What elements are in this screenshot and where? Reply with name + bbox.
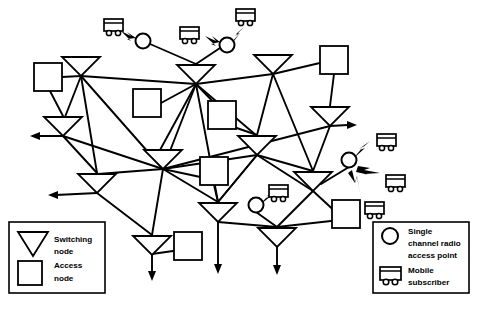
access-node-1[interactable] — [34, 63, 62, 91]
radio-legend: Single channel radio access point Mobile… — [373, 222, 469, 293]
legend-right-item-0-line1: Single — [408, 227, 433, 236]
legend-right-item-0-line3: access point — [408, 251, 457, 260]
legend-left-item-0-line1: Switching — [54, 235, 92, 244]
lightning-bolt-icon — [356, 166, 380, 175]
switching-node-4[interactable] — [311, 107, 349, 126]
switching-node-5[interactable] — [44, 117, 82, 136]
switching-node-6[interactable] — [238, 136, 276, 155]
lightning-bolt-icon — [205, 36, 220, 46]
mobile-subscriber-2[interactable] — [180, 27, 199, 44]
radio-access-point-4[interactable] — [249, 198, 264, 213]
trunk-arrow-down-mid — [214, 264, 222, 274]
legend-access-node-square-icon — [18, 261, 42, 285]
radio-access-point-3[interactable] — [342, 153, 357, 168]
switching-node-8[interactable] — [78, 174, 116, 193]
diagram-canvas: Switching node Access node Single channe… — [0, 0, 479, 309]
trunk-arrow-left-lower — [48, 191, 58, 199]
mobile-subscriber-4[interactable] — [377, 134, 396, 151]
network-topology-svg: Switching node Access node Single channe… — [0, 0, 479, 309]
access-node-2[interactable] — [133, 89, 161, 117]
switching-node-10[interactable] — [199, 203, 237, 222]
mobile-subscriber-1[interactable] — [104, 19, 123, 36]
legend-left-item-1-line1: Access — [54, 261, 83, 270]
switching-node-1[interactable] — [62, 57, 100, 76]
access-node-6[interactable] — [174, 232, 202, 260]
trunk-arrow-left-upper — [30, 132, 40, 140]
node-type-legend: Switching node Access node — [9, 222, 105, 293]
lightning-bolt-icon — [121, 31, 136, 41]
legend-right-item-0-line2: channel radio — [408, 239, 461, 248]
legend-left-item-1-line2: node — [54, 274, 74, 283]
legend-left-item-0-line2: node — [54, 247, 74, 256]
mobile-subscriber-7[interactable] — [269, 185, 288, 202]
legend-right-item-1-line1: Mobile — [408, 266, 434, 275]
trunk-arrow-right — [347, 121, 357, 129]
radio-access-point-2[interactable] — [220, 38, 235, 53]
switching-node-2[interactable] — [177, 65, 215, 84]
lightning-bolt-icon — [348, 170, 360, 193]
switching-node-12[interactable] — [258, 228, 296, 247]
radio-access-point-1[interactable] — [136, 34, 151, 49]
access-node-7[interactable] — [332, 200, 360, 228]
mobile-subscriber-5[interactable] — [386, 175, 405, 192]
access-node-5[interactable] — [200, 157, 228, 185]
trunk-arrow-down-left — [148, 271, 156, 281]
legend-radio-access-point-circle-icon — [382, 228, 398, 244]
trunk-arrow-down-right — [273, 265, 281, 275]
legend-right-item-1-line2: subscriber — [408, 278, 450, 287]
mobile-subscriber-6[interactable] — [365, 202, 384, 219]
lightning-bolt-icon — [354, 141, 370, 158]
access-node-4[interactable] — [320, 46, 348, 74]
mobile-subscriber-3[interactable] — [236, 9, 255, 26]
access-node-3[interactable] — [208, 101, 236, 129]
